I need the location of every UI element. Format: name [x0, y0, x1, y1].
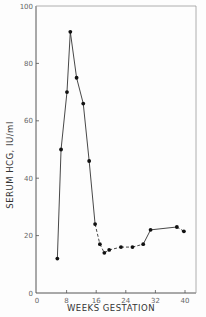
- series-segment: [67, 32, 70, 92]
- data-point: [68, 30, 72, 34]
- data-series: [55, 30, 185, 261]
- data-point: [107, 248, 111, 252]
- data-point: [93, 222, 97, 226]
- data-point: [55, 257, 59, 261]
- data-point: [131, 245, 135, 249]
- y-tick-label: 40: [24, 175, 33, 183]
- data-point: [98, 242, 102, 246]
- series-segment: [143, 230, 150, 244]
- data-point: [141, 242, 145, 246]
- data-point: [59, 148, 63, 152]
- hcg-chart: 020406080100 0816243240 WEEKS GESTATION …: [0, 0, 206, 317]
- y-tick-label: 0: [29, 290, 33, 298]
- series-segment: [151, 227, 177, 230]
- data-point: [87, 159, 91, 163]
- x-axis-label: WEEKS GESTATION: [67, 303, 155, 313]
- series-segment: [89, 161, 95, 224]
- y-tick-label: 100: [20, 3, 33, 11]
- y-tick-label: 80: [24, 60, 33, 68]
- data-point: [65, 90, 69, 94]
- data-point: [75, 76, 79, 80]
- data-point: [182, 229, 186, 233]
- data-point: [102, 251, 106, 255]
- series-segment: [77, 78, 84, 104]
- series-segment: [70, 32, 76, 78]
- series-segment: [83, 104, 89, 161]
- series-segment: [61, 92, 67, 149]
- data-point: [149, 228, 153, 232]
- y-tick-label: 20: [24, 232, 33, 240]
- data-point: [81, 102, 85, 106]
- data-point: [119, 245, 123, 249]
- y-tick-label: 60: [24, 117, 33, 125]
- x-tick-label: 0: [35, 297, 39, 305]
- series-segment: [57, 150, 61, 259]
- series-segment: [95, 224, 100, 244]
- y-axis-label: SERUM HCG, IU/ml: [5, 121, 15, 208]
- x-tick-label: 40: [181, 297, 190, 305]
- data-point: [175, 225, 179, 229]
